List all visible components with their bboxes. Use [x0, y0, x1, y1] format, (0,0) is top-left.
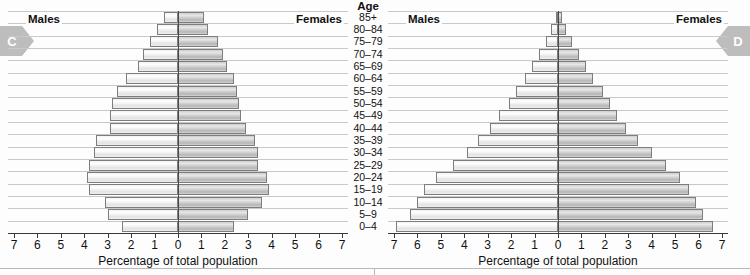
bar-male	[490, 123, 558, 134]
panel-c-plot-area	[8, 11, 348, 233]
x-axis-tick-label: 6	[34, 238, 41, 252]
bar-male	[424, 184, 558, 195]
bar-female	[178, 221, 234, 232]
x-axis-tick-label: 5	[58, 238, 65, 252]
x-axis-tick-label: 0	[175, 238, 182, 252]
bar-male	[110, 123, 178, 134]
bar-male	[525, 73, 558, 84]
x-axis-tick-label: 3	[104, 238, 111, 252]
bar-male	[516, 86, 558, 97]
x-axis-tick-label: 6	[315, 238, 322, 252]
bar-male	[546, 36, 558, 47]
age-group-label: 15–19	[348, 184, 388, 195]
panel-c-males-label: Males	[26, 13, 62, 25]
bar-female	[558, 110, 617, 121]
bar-male	[478, 135, 558, 146]
x-axis-tick-label: 2	[128, 238, 135, 252]
age-group-label: 85+	[348, 12, 388, 23]
bar-female	[178, 73, 234, 84]
bar-male	[164, 12, 178, 23]
age-group-label: 20–24	[348, 172, 388, 183]
bar-female	[558, 197, 696, 208]
panel-c-females-label: Females	[294, 13, 344, 25]
bar-female	[178, 61, 227, 72]
bar-female	[558, 160, 666, 171]
bar-male	[105, 197, 178, 208]
bar-male	[94, 147, 178, 158]
bar-male	[157, 24, 178, 35]
bar-female	[558, 209, 703, 220]
bar-female	[178, 172, 267, 183]
bar-male	[87, 172, 178, 183]
bar-female	[558, 61, 586, 72]
x-axis-tick-label: 4	[648, 238, 655, 252]
bar-male	[96, 135, 178, 146]
x-axis-tick-label: 6	[695, 238, 702, 252]
bar-male	[117, 86, 178, 97]
population-pyramid-figure: C D Males Females 765432101234567 Percen…	[0, 0, 750, 275]
bar-female	[178, 36, 218, 47]
x-axis-tick-label: 7	[339, 238, 346, 252]
bar-male	[509, 98, 558, 109]
age-group-label: 55–59	[348, 86, 388, 97]
bar-female	[558, 98, 610, 109]
bar-female	[178, 49, 223, 60]
x-axis-tick-label: 5	[672, 238, 679, 252]
x-axis-tick-label: 2	[222, 238, 229, 252]
bar-male	[436, 172, 558, 183]
bar-female	[558, 73, 593, 84]
figure-bottom-tick	[374, 268, 375, 275]
x-axis-tick-label: 7	[719, 238, 726, 252]
bar-female	[178, 209, 248, 220]
bar-male	[110, 110, 178, 121]
age-group-label: 45–49	[348, 110, 388, 121]
bar-male	[539, 49, 558, 60]
x-axis-tick-label: 7	[11, 238, 18, 252]
pyramid-panel-d: Males Females 765432101234567 Percentage…	[388, 0, 728, 275]
bar-female	[178, 110, 241, 121]
bar-female	[558, 172, 680, 183]
bar-female	[178, 123, 246, 134]
bar-male	[453, 160, 558, 171]
panel-d-x-axis-title: Percentage of total population	[388, 254, 728, 268]
bar-male	[410, 209, 558, 220]
figure-marker-d-label: D	[733, 34, 742, 49]
x-axis-tick-label: 0	[555, 238, 562, 252]
bar-female	[178, 147, 258, 158]
bar-male	[396, 221, 558, 232]
bar-male	[112, 98, 178, 109]
x-axis-tick-label: 3	[625, 238, 632, 252]
bar-male	[138, 61, 178, 72]
bar-female	[558, 221, 713, 232]
age-group-label: 65–69	[348, 61, 388, 72]
bar-female	[178, 24, 208, 35]
bar-male	[150, 36, 178, 47]
bar-male	[417, 197, 558, 208]
bar-male	[532, 61, 558, 72]
bar-female	[178, 197, 262, 208]
bar-female	[558, 49, 579, 60]
panel-d-females-label: Females	[674, 13, 724, 25]
bar-female	[558, 135, 638, 146]
bar-male	[499, 110, 558, 121]
panel-c-x-axis-title: Percentage of total population	[8, 254, 348, 268]
age-group-label: 70–74	[348, 49, 388, 60]
age-group-label: 25–29	[348, 160, 388, 171]
bar-female	[178, 86, 237, 97]
age-group-label: 10–14	[348, 197, 388, 208]
center-zero-axis	[558, 11, 559, 233]
x-axis-tick-label: 1	[198, 238, 205, 252]
bar-male	[143, 49, 178, 60]
age-group-axis: Age 85+80–8475–7970–7465–6960–6455–5950–…	[348, 0, 388, 275]
x-axis-tick-label: 3	[245, 238, 252, 252]
x-axis-tick-label: 4	[461, 238, 468, 252]
age-group-label: 80–84	[348, 24, 388, 35]
panel-d-males-label: Males	[406, 13, 442, 25]
bar-female	[558, 24, 566, 35]
bar-female	[558, 86, 603, 97]
x-axis-tick-label: 1	[578, 238, 585, 252]
center-zero-axis	[178, 11, 179, 233]
pyramid-panel-c: Males Females 765432101234567 Percentage…	[8, 0, 348, 275]
bar-male	[89, 160, 178, 171]
age-group-label: 30–34	[348, 147, 388, 158]
